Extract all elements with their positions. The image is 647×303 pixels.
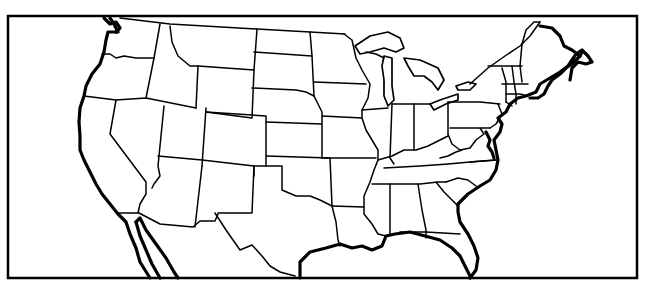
us-outline-map — [0, 0, 647, 303]
border-ar-la — [332, 206, 364, 207]
